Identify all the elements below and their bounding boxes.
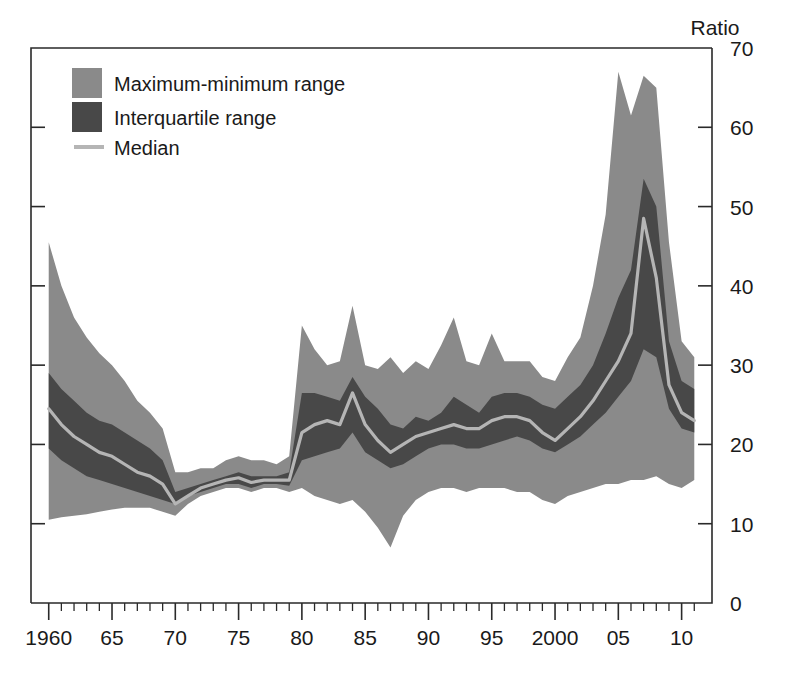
y-axis-tick-label: 20 — [730, 433, 753, 456]
legend-label-interquartile-range: Interquartile range — [114, 107, 276, 129]
y-axis-tick-label: 50 — [730, 196, 753, 219]
x-axis-ticks — [49, 603, 695, 620]
x-axis-tick-labels: 19606570758085909520000510 — [25, 626, 693, 649]
x-axis-tick-label: 95 — [480, 626, 503, 649]
legend-swatch-maximum-minimum-range — [72, 68, 102, 98]
y-axis-tick-labels: 010203040506070 — [730, 37, 753, 615]
chart-legend: Maximum-minimum range Interquartile rang… — [72, 68, 345, 159]
y-axis-title: Ratio — [690, 16, 739, 39]
x-axis-tick-label: 65 — [100, 626, 123, 649]
x-axis-tick-label: 05 — [607, 626, 630, 649]
legend-swatch-interquartile-range — [72, 102, 102, 132]
x-axis-tick-label: 2000 — [532, 626, 579, 649]
y-axis-tick-label: 30 — [730, 354, 753, 377]
y-axis-tick-label: 40 — [730, 275, 753, 298]
y-axis-tick-label: 60 — [730, 116, 753, 139]
chart-container: 010203040506070 196065707580859095200005… — [0, 0, 802, 673]
x-axis-tick-label: 85 — [353, 626, 376, 649]
x-axis-tick-label: 80 — [290, 626, 313, 649]
y-axis-tick-label: 0 — [730, 592, 742, 615]
legend-label-median: Median — [114, 137, 180, 159]
x-axis-tick-label: 10 — [670, 626, 693, 649]
legend-label-maximum-minimum-range: Maximum-minimum range — [114, 73, 345, 95]
x-axis-tick-label: 75 — [227, 626, 250, 649]
x-axis-tick-label: 90 — [417, 626, 440, 649]
y-axis-tick-label: 70 — [730, 37, 753, 60]
y-axis-tick-label: 10 — [730, 513, 753, 536]
price-earnings-ratio-chart: 010203040506070 196065707580859095200005… — [0, 0, 802, 673]
x-axis-tick-label: 70 — [164, 626, 187, 649]
x-axis-tick-label: 1960 — [25, 626, 72, 649]
